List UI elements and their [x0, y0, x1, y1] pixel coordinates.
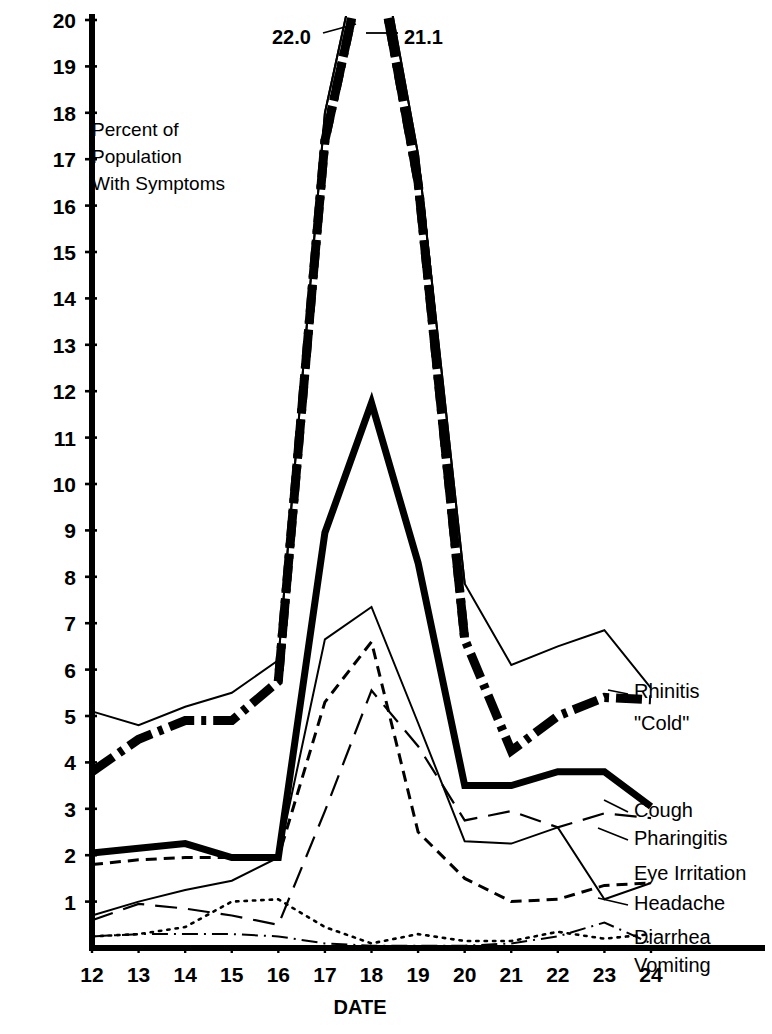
y-tick-label: 9 [64, 519, 76, 542]
y-tick-label: 20 [53, 9, 76, 32]
x-tick-label: 21 [500, 963, 524, 986]
series-label-vomiting: Vomiting [634, 954, 711, 976]
series-label-headache: Headache [634, 892, 725, 914]
y-tick-label: 11 [54, 427, 77, 450]
y-tick-label: 13 [53, 334, 76, 357]
chart-canvas: 1234567891011121314151617181920 12131415… [0, 0, 772, 1034]
y-tick-label: 14 [53, 287, 77, 310]
x-tick-label: 13 [127, 963, 150, 986]
series-label-rhinitis: Rhinitis [634, 680, 700, 702]
y-tick-label: 8 [64, 566, 76, 589]
y-tick-label: 19 [53, 55, 76, 78]
y-tick-label: 4 [64, 751, 76, 774]
y-tick-label: 3 [64, 798, 76, 821]
x-tick-label: 17 [313, 963, 336, 986]
y-tick-label: 16 [53, 195, 76, 218]
y-tick-label: 7 [64, 612, 76, 635]
y-tick-label: 15 [53, 241, 77, 264]
series-label-cold: "Cold" [634, 712, 689, 734]
y-tick-label: 17 [53, 148, 76, 171]
series-label-pharingitis: Pharingitis [634, 827, 727, 849]
y-tick-label: 12 [53, 380, 76, 403]
peak-annotation-label: 22.0 [272, 26, 311, 48]
y-tick-label: 6 [64, 659, 76, 682]
x-axis-title: DATE [334, 996, 387, 1018]
x-tick-label: 14 [173, 963, 197, 986]
x-axis-title: DATE [334, 996, 387, 1018]
symptom-prevalence-chart: 1234567891011121314151617181920 12131415… [0, 0, 772, 1034]
y-tick-label: 1 [64, 891, 76, 914]
x-tick-label: 19 [406, 963, 429, 986]
x-tick-label: 18 [360, 963, 384, 986]
series-label-diarrhea: Diarrhea [634, 926, 712, 948]
series-label-eye-irritation: Eye Irritation [634, 862, 746, 884]
series-label-cough: Cough [634, 799, 693, 821]
y-tick-label: 18 [53, 102, 77, 125]
x-tick-label: 15 [220, 963, 244, 986]
y-tick-label: 10 [53, 473, 76, 496]
y-axis-title-line: With Symptoms [92, 173, 225, 194]
peak-annotation-label: 21.1 [404, 26, 443, 48]
x-tick-label: 20 [453, 963, 476, 986]
x-tick-label: 23 [593, 963, 616, 986]
y-axis-title-line: Percent of [92, 119, 179, 140]
x-tick-label: 22 [546, 963, 569, 986]
y-axis-title-line: Population [92, 146, 182, 167]
y-tick-label: 2 [64, 844, 76, 867]
x-tick-label: 16 [267, 963, 290, 986]
y-tick-label: 5 [64, 705, 76, 728]
x-tick-label: 12 [80, 963, 103, 986]
